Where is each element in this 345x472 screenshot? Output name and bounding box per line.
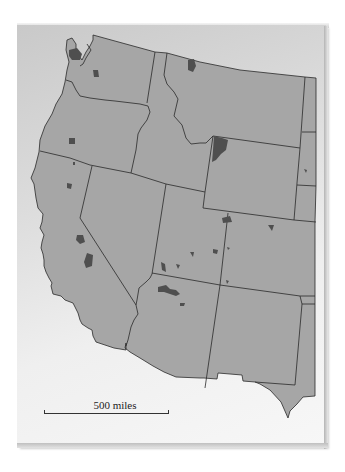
area-olympic	[69, 48, 82, 60]
area-rainier	[93, 70, 99, 77]
scale-bar	[44, 410, 169, 414]
area-crater-lake	[69, 138, 75, 144]
western-us-map	[0, 0, 345, 472]
area-redwood	[73, 162, 75, 165]
